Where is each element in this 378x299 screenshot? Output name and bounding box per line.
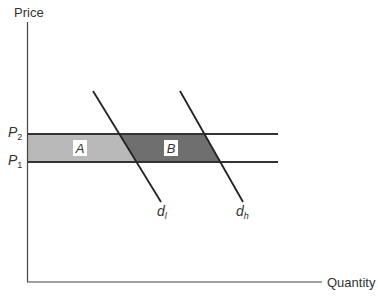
p2-label: P2 — [8, 124, 22, 142]
region-b-label: B — [167, 141, 176, 156]
x-axis-label: Quantity — [327, 275, 376, 290]
p1-label: P1 — [8, 152, 22, 170]
region-a-label: A — [75, 141, 85, 156]
chart-canvas: A B Price Quantity P2 P1 dl dh — [0, 0, 378, 299]
dl-label: dl — [157, 203, 168, 221]
dh-label: dh — [236, 203, 249, 221]
y-axis-label: Price — [14, 5, 44, 20]
